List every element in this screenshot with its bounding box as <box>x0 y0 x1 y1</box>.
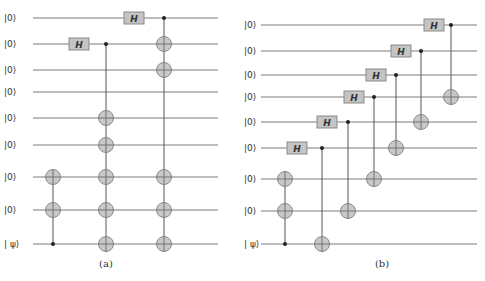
qubit-label: | ψ⟩ <box>4 239 19 249</box>
control-dot-icon <box>394 73 398 77</box>
qubit-label: |0⟩ <box>244 70 256 80</box>
subfigure-caption: (a) <box>99 258 113 269</box>
qubit-label: |0⟩ <box>4 113 16 123</box>
hadamard-label: H <box>75 40 83 50</box>
subfigure-caption: (b) <box>375 258 389 269</box>
hadamard-gate: H <box>344 91 364 103</box>
qubit-label: |0⟩ <box>244 117 256 127</box>
hadamard-gate: H <box>287 142 307 154</box>
hadamard-gate: H <box>366 69 386 81</box>
cnot-gate <box>315 146 330 252</box>
qubit-label: |0⟩ <box>244 206 256 216</box>
qubit-label: |0⟩ <box>4 65 16 75</box>
hadamard-label: H <box>323 118 331 128</box>
qubit-label: |0⟩ <box>4 140 16 150</box>
quantum-circuit-diagram: |0⟩|0⟩|0⟩|0⟩|0⟩|0⟩|0⟩|0⟩| ψ⟩HH(a)|0⟩|0⟩|… <box>0 0 485 281</box>
cnot-gate <box>157 16 172 252</box>
cnot-gate <box>278 172 293 247</box>
hadamard-gate: H <box>124 12 144 24</box>
hadamard-gate: H <box>317 116 337 128</box>
qubit-label: |0⟩ <box>4 205 16 215</box>
qubit-label: |0⟩ <box>244 46 256 56</box>
hadamard-gate: H <box>424 19 444 31</box>
qubit-label: | ψ⟩ <box>244 239 259 249</box>
control-dot-icon <box>449 23 453 27</box>
hadamard-label: H <box>372 71 380 81</box>
control-dot-icon <box>51 242 55 246</box>
circuit-a: |0⟩|0⟩|0⟩|0⟩|0⟩|0⟩|0⟩|0⟩| ψ⟩HH(a) <box>4 12 218 269</box>
qubit-label: |0⟩ <box>4 172 16 182</box>
qubit-label: |0⟩ <box>244 143 256 153</box>
hadamard-gate: H <box>69 38 89 50</box>
hadamard-label: H <box>350 93 358 103</box>
control-dot-icon <box>283 242 287 246</box>
control-dot-icon <box>372 95 376 99</box>
hadamard-label: H <box>293 144 301 154</box>
hadamard-gate: H <box>391 45 411 57</box>
control-dot-icon <box>419 49 423 53</box>
cnot-gate <box>444 23 459 105</box>
qubit-label: |0⟩ <box>244 20 256 30</box>
control-dot-icon <box>320 146 324 150</box>
cnot-gate <box>341 120 356 219</box>
qubit-label: |0⟩ <box>4 39 16 49</box>
control-dot-icon <box>104 42 108 46</box>
hadamard-label: H <box>130 14 138 24</box>
hadamard-label: H <box>397 47 405 57</box>
qubit-label: |0⟩ <box>4 87 16 97</box>
control-dot-icon <box>346 120 350 124</box>
cnot-gate <box>414 49 429 130</box>
qubit-label: |0⟩ <box>244 174 256 184</box>
cnot-gate <box>389 73 404 156</box>
cnot-gate <box>367 95 382 187</box>
circuit-b: |0⟩|0⟩|0⟩|0⟩|0⟩|0⟩|0⟩|0⟩| ψ⟩HHHHHH(b) <box>244 19 477 269</box>
cnot-gate <box>46 170 61 247</box>
cnot-gate <box>99 42 114 252</box>
control-dot-icon <box>162 16 166 20</box>
hadamard-label: H <box>430 21 438 31</box>
qubit-label: |0⟩ <box>244 92 256 102</box>
qubit-label: |0⟩ <box>4 13 16 23</box>
